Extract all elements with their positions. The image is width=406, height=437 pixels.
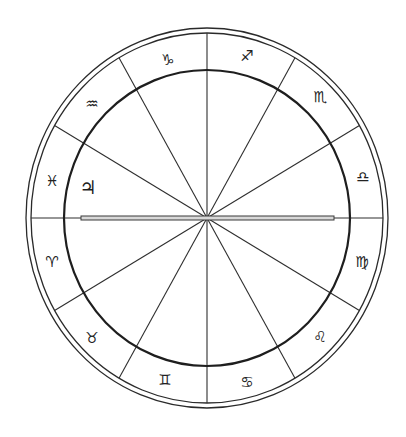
house-cusp-line: [119, 218, 207, 378]
cancer-glyph-icon: ♋: [240, 373, 253, 391]
libra-glyph-icon: ♎: [356, 168, 369, 186]
aquarius-glyph-icon: ♒: [85, 95, 98, 113]
house-cusp-line: [207, 218, 295, 378]
taurus-glyph-icon: ♉: [85, 329, 98, 347]
gemini-glyph-icon: ♊: [158, 371, 171, 389]
pisces-glyph-icon: ♓: [45, 172, 58, 190]
jupiter-glyph-icon: ♃: [79, 176, 96, 198]
house-cusp-line: [207, 218, 359, 311]
leo-glyph-icon: ♌: [313, 328, 326, 346]
aries-glyph-icon: ♈: [45, 253, 58, 271]
virgo-glyph-icon: ♍: [355, 253, 368, 271]
planets: ♃: [79, 176, 96, 198]
house-cusp-line: [119, 58, 207, 218]
scorpio-glyph-icon: ♏: [313, 88, 327, 106]
house-cusp-line: [55, 126, 207, 219]
astrology-chart-wheel: ♈ ♉ ♊ ♋ ♌ ♍ ♎ ♏ ♐ ♑ ♒ ♓ ♃: [0, 0, 406, 437]
house-cusp-line: [207, 58, 295, 218]
house-cusp-line: [55, 218, 207, 311]
horizon-axis-bar: [81, 216, 334, 220]
capricorn-glyph-icon: ♑: [161, 51, 174, 69]
house-cusp-line: [207, 126, 359, 219]
sagittarius-glyph-icon: ♐: [240, 47, 253, 65]
